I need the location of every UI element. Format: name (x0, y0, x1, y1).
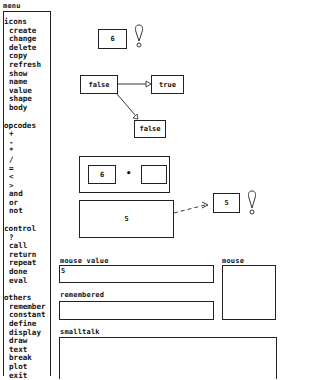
output-value: 5 (214, 199, 239, 207)
mouse-value-text: 5 (61, 267, 65, 275)
smalltalk-field[interactable] (59, 337, 277, 379)
true-branch-box[interactable]: true (151, 75, 184, 94)
mouse-panel[interactable] (222, 265, 276, 320)
exclamation-icon (134, 24, 144, 48)
result-value: 5 (80, 215, 173, 223)
multiply-right-operand[interactable] (141, 165, 167, 184)
remembered-field[interactable] (59, 301, 214, 320)
condition-box[interactable]: false (80, 75, 118, 94)
result-box[interactable]: 5 (79, 200, 174, 238)
mouse-value-field[interactable]: 5 (59, 265, 214, 283)
output-box[interactable]: 5 (213, 193, 240, 213)
false-branch-box[interactable]: false (134, 120, 166, 138)
mouse-value-label: mouse value (60, 257, 109, 265)
multiply-operator: • (126, 168, 131, 178)
false-branch-value: false (135, 125, 165, 133)
smalltalk-label: smalltalk (60, 328, 100, 336)
multiply-left-operand[interactable]: 6 (88, 165, 116, 184)
multiply-left-value: 6 (89, 171, 115, 179)
value-box-top[interactable]: 6 (98, 29, 127, 49)
value-box-top-value: 6 (99, 35, 126, 43)
exclamation-icon (247, 190, 257, 215)
condition-value: false (81, 81, 117, 89)
multiply-expression-box[interactable]: 6 • (79, 156, 170, 193)
mouse-label: mouse (222, 257, 244, 265)
remembered-label: remembered (60, 291, 104, 299)
true-branch-value: true (152, 81, 183, 89)
